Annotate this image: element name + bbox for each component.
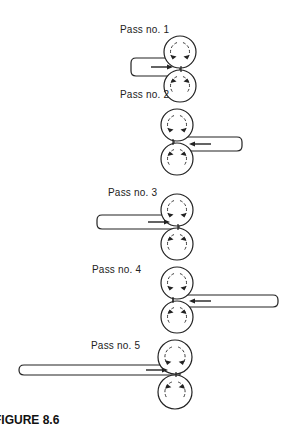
pass-2-top-roll [161, 109, 193, 141]
pass-3-bottom-roll [161, 228, 193, 260]
pass-1-top-roll [164, 36, 196, 68]
pass-5-label: Pass no. 5 [91, 340, 140, 351]
figure-caption: FIGURE 8.6 [0, 413, 59, 424]
pass-2-group [161, 109, 242, 175]
pass-1-label: Pass no. 1 [120, 24, 169, 35]
pass-2-label: Pass no. 2 [120, 89, 169, 100]
pass-4-label: Pass no. 4 [92, 264, 141, 275]
pass-4-top-roll [161, 267, 193, 299]
pass-4-workpiece [173, 295, 278, 307]
pass-2-bottom-roll [161, 143, 193, 175]
pass-4-bottom-roll [161, 301, 193, 333]
pass-5-bottom-roll [158, 375, 192, 409]
rolling-passes-diagram [0, 0, 294, 424]
pass-3-label: Pass no. 3 [108, 187, 157, 198]
pass-4-group [161, 267, 278, 333]
pass-3-group [97, 194, 193, 260]
